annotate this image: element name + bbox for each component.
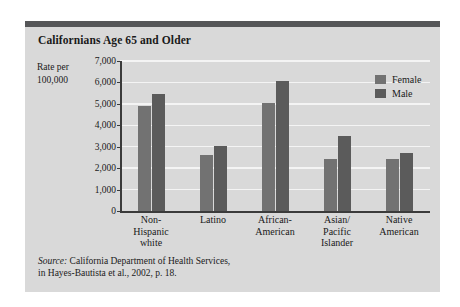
legend-item-female: Female xyxy=(375,72,421,86)
y-axis-tick-label: 7,000 xyxy=(95,56,116,66)
source-note: Source: California Department of Health … xyxy=(38,255,230,279)
bar-male xyxy=(152,94,165,211)
source-prefix: Source: xyxy=(38,256,67,266)
plot: 7,0006,0005,0004,0003,0002,0001,0000 Non… xyxy=(120,61,430,232)
source-line2: in Hayes-Bautista et al., 2002, p. 18. xyxy=(38,267,230,279)
bar-male xyxy=(214,146,227,211)
chart-card: Californians Age 65 and Older Rate per 1… xyxy=(25,21,440,292)
source-line1: Source: California Department of Health … xyxy=(38,255,230,267)
bar-male xyxy=(276,81,289,211)
x-axis-category-label: Native American xyxy=(368,214,430,237)
legend-swatch-male-icon xyxy=(375,89,386,98)
bar-female xyxy=(138,106,151,211)
x-axis-category-label: Latino xyxy=(182,214,244,226)
bar-male xyxy=(338,136,351,211)
x-axis-category-label: Non- Hispanic white xyxy=(120,214,182,249)
y-axis-tick-label: 6,000 xyxy=(95,77,116,87)
page-title: Californians Age 65 and Older xyxy=(38,34,191,46)
x-axis-category-label: Asian/ Pacific Islander xyxy=(306,214,368,249)
x-axis-category-label: African- American xyxy=(244,214,306,237)
y-axis-line xyxy=(120,61,122,211)
bar-male xyxy=(400,153,413,211)
figure-container: Californians Age 65 and Older Rate per 1… xyxy=(0,0,460,307)
y-axis-tick-label: 2,000 xyxy=(95,163,116,173)
y-axis-tick-label: 5,000 xyxy=(95,99,116,109)
y-axis-tick-label: 4,000 xyxy=(95,120,116,130)
bar-female xyxy=(262,103,275,211)
card-accent-bar xyxy=(25,21,440,27)
y-axis-tick-label: 0 xyxy=(111,206,116,216)
bar-female xyxy=(200,155,213,211)
y-axis-tick-label: 1,000 xyxy=(95,185,116,195)
bar-female xyxy=(386,159,399,212)
legend-item-male: Male xyxy=(375,86,421,100)
legend-label-male: Male xyxy=(392,88,413,99)
x-axis-line xyxy=(120,211,430,213)
legend-swatch-female-icon xyxy=(375,75,386,84)
y-axis-tick-label: 3,000 xyxy=(95,142,116,152)
legend: Female Male xyxy=(375,72,421,100)
gridline xyxy=(120,60,430,62)
source-text1: California Department of Health Services… xyxy=(67,256,230,266)
bar-female xyxy=(324,159,337,212)
legend-label-female: Female xyxy=(392,74,421,85)
